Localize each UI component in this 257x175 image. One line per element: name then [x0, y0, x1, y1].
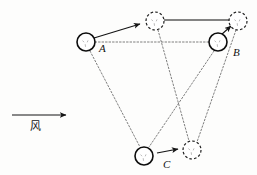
node-b [209, 33, 227, 51]
node-c [135, 147, 153, 165]
wind-label: 风 [30, 121, 41, 132]
dotted-edge-b-c [149, 51, 214, 147]
node-b-displaced [229, 12, 247, 30]
displacement-arrow-c [157, 149, 178, 153]
node-label-b: B [233, 47, 240, 58]
dotted-edge-a-c [90, 51, 140, 147]
node-label-c: C [163, 159, 170, 170]
node-a-displaced [146, 12, 164, 30]
diagram-svg [0, 0, 257, 175]
dotted-edge-a2-c2 [158, 30, 189, 141]
dotted-triangle-original [90, 42, 214, 147]
figure-canvas: A B C 风 [0, 0, 257, 175]
node-label-a: A [99, 43, 106, 54]
node-a [77, 33, 95, 51]
displacement-arrow-a [94, 24, 140, 38]
node-c-displaced [183, 141, 201, 159]
